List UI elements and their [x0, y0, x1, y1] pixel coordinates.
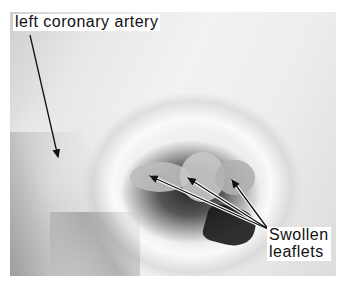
swollen-leaflets-label: Swollen leaflets	[267, 227, 331, 261]
leaflet-arrows	[150, 176, 268, 229]
left-coronary-artery-label: left coronary artery	[13, 14, 160, 31]
swollen-leaflets-label-line1: Swollen	[269, 227, 329, 244]
leaflet-arrow-2	[188, 178, 268, 229]
swollen-leaflets-label-line2: leaflets	[269, 244, 329, 261]
artery-arrow	[30, 35, 58, 157]
